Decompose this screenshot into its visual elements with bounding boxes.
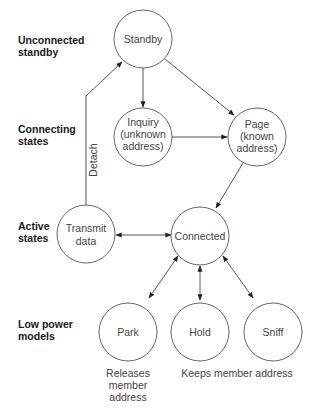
row-label-unconnected-standby: Unconnected standby bbox=[18, 34, 85, 58]
svg-text:Transmit: Transmit bbox=[66, 222, 107, 234]
node-transmit-data: Transmit data bbox=[57, 205, 115, 263]
svg-text:address): address) bbox=[123, 140, 164, 152]
note-releases-member-address: Releases member address bbox=[106, 367, 150, 403]
svg-text:Inquiry: Inquiry bbox=[127, 116, 159, 128]
svg-text:member: member bbox=[109, 379, 148, 391]
row-label-connecting-states: Connecting states bbox=[18, 123, 76, 147]
svg-text:(known: (known bbox=[240, 130, 274, 142]
edge-connected-sniff bbox=[223, 256, 253, 298]
svg-text:Standby: Standby bbox=[124, 33, 163, 45]
svg-text:Sniff: Sniff bbox=[263, 326, 284, 338]
edge-label-detach: Detach bbox=[87, 143, 99, 176]
svg-text:models: models bbox=[18, 330, 55, 342]
svg-text:Connecting: Connecting bbox=[18, 123, 76, 135]
svg-text:Park: Park bbox=[117, 326, 139, 338]
svg-text:Connected: Connected bbox=[175, 230, 226, 242]
svg-text:Page: Page bbox=[245, 118, 270, 130]
note-keeps-member-address: Keeps member address bbox=[181, 367, 292, 379]
svg-text:address: address bbox=[109, 391, 146, 403]
row-label-low-power-models: Low power models bbox=[18, 318, 73, 342]
svg-text:Active: Active bbox=[18, 220, 50, 232]
svg-text:states: states bbox=[18, 232, 49, 244]
svg-text:Releases: Releases bbox=[106, 367, 150, 379]
svg-text:Unconnected: Unconnected bbox=[18, 34, 85, 46]
svg-text:standby: standby bbox=[18, 46, 58, 58]
svg-text:states: states bbox=[18, 135, 49, 147]
svg-text:address): address) bbox=[237, 142, 278, 154]
svg-text:Hold: Hold bbox=[189, 326, 211, 338]
node-inquiry: Inquiry (unknown address) bbox=[114, 108, 172, 166]
node-sniff: Sniff bbox=[244, 303, 302, 361]
node-page: Page (known address) bbox=[228, 108, 286, 166]
edge-connected-park bbox=[149, 256, 178, 298]
svg-text:(unknown: (unknown bbox=[120, 128, 166, 140]
edge-page-to-connected bbox=[216, 163, 243, 208]
svg-text:data: data bbox=[76, 235, 97, 247]
edge-standby-to-page bbox=[165, 59, 234, 115]
node-standby: Standby bbox=[114, 10, 172, 68]
bluetooth-state-diagram: Unconnected standby Connecting states Ac… bbox=[0, 0, 315, 418]
node-park: Park bbox=[99, 303, 157, 361]
row-label-active-states: Active states bbox=[18, 220, 50, 244]
svg-text:Low power: Low power bbox=[18, 318, 73, 330]
node-connected: Connected bbox=[171, 207, 229, 265]
node-hold: Hold bbox=[171, 303, 229, 361]
